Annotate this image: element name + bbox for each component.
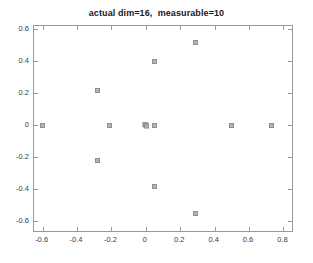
y-axis-tick-label: 0.4 [19, 56, 29, 65]
y-axis-tick [34, 221, 38, 222]
y-axis-tick-label: 0.2 [19, 88, 29, 97]
x-axis-tick [249, 227, 250, 231]
data-point-marker [193, 40, 198, 45]
x-axis-tick [215, 26, 216, 30]
x-axis-tick [146, 227, 147, 231]
y-axis-tick-label: -0.2 [16, 152, 29, 161]
x-axis-tick-label: 0.2 [174, 235, 184, 244]
x-axis-tick [283, 227, 284, 231]
x-axis-tick [249, 26, 250, 30]
data-point-marker [152, 184, 157, 189]
x-axis-tick [43, 26, 44, 30]
y-axis-tick-label: 0 [25, 120, 29, 129]
x-axis-tick [43, 227, 44, 231]
y-axis-tick [288, 157, 292, 158]
y-axis-tick-label: -0.4 [16, 184, 29, 193]
x-axis-tick [111, 227, 112, 231]
data-point-marker [144, 124, 149, 129]
x-axis-tick-label: 0.6 [243, 235, 253, 244]
y-axis-tick [288, 221, 292, 222]
x-axis-tick-label: -0.6 [35, 235, 48, 244]
y-axis-tick [34, 125, 38, 126]
y-axis-tick [288, 93, 292, 94]
x-axis-tick [283, 26, 284, 30]
scatter-plot-figure: actual dim=16, measurable=10 -0.6-0.4-0.… [0, 0, 313, 263]
x-axis-tick-label: 0 [143, 235, 147, 244]
x-axis-tick [180, 26, 181, 30]
x-axis-tick-label: -0.2 [104, 235, 117, 244]
x-axis-tick-label: -0.4 [70, 235, 83, 244]
chart-title: actual dim=16, measurable=10 [0, 8, 313, 18]
data-points-layer [34, 26, 292, 231]
y-axis-tick [34, 189, 38, 190]
y-axis-tick [288, 125, 292, 126]
data-point-marker [40, 123, 45, 128]
y-axis-tick [288, 61, 292, 62]
x-axis-tick [77, 227, 78, 231]
data-point-marker [269, 123, 274, 128]
y-axis-tick [34, 93, 38, 94]
y-axis-tick [34, 157, 38, 158]
x-axis-tick [146, 26, 147, 30]
data-point-marker [152, 123, 157, 128]
y-axis-tick [34, 29, 38, 30]
data-point-marker [95, 158, 100, 163]
x-axis-tick [111, 26, 112, 30]
data-point-marker [152, 59, 157, 64]
y-axis-tick-label: 0.6 [19, 24, 29, 33]
data-point-marker [95, 88, 100, 93]
y-axis-tick [288, 29, 292, 30]
y-axis-tick-label: -0.6 [16, 216, 29, 225]
x-axis-tick [77, 26, 78, 30]
x-axis-tick-label: 0.4 [208, 235, 218, 244]
x-axis-tick-labels: -0.6-0.4-0.200.20.40.60.8 [33, 235, 293, 249]
y-axis-tick [288, 189, 292, 190]
plot-area [33, 25, 293, 232]
data-point-marker [107, 123, 112, 128]
x-axis-tick-label: 0.8 [277, 235, 287, 244]
data-point-marker [193, 211, 198, 216]
x-axis-tick [180, 227, 181, 231]
y-axis-tick [34, 61, 38, 62]
data-point-marker [229, 123, 234, 128]
x-axis-tick [215, 227, 216, 231]
y-axis-tick-labels: -0.6-0.4-0.200.20.40.6 [0, 25, 29, 232]
